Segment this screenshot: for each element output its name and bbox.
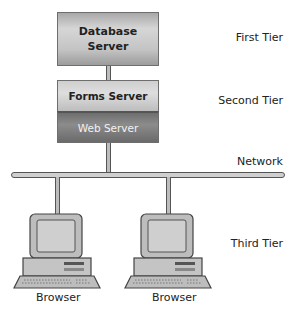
network-label: Network bbox=[237, 155, 283, 168]
client-label: Browser bbox=[36, 291, 81, 304]
computer-icon bbox=[123, 212, 213, 290]
web-server-box: Web Server bbox=[57, 111, 159, 143]
database-server-box: Database Server bbox=[57, 12, 159, 66]
third-tier-label: Third Tier bbox=[231, 237, 283, 250]
forms-server-label: Forms Server bbox=[69, 90, 148, 102]
forms-server-box: Forms Server bbox=[57, 80, 159, 111]
client-label: Browser bbox=[152, 291, 197, 304]
db-forms-connector bbox=[106, 66, 111, 80]
network-bus bbox=[11, 172, 285, 178]
web-network-connector bbox=[106, 143, 111, 174]
client1-connector bbox=[55, 177, 60, 214]
web-server-label: Web Server bbox=[78, 122, 139, 134]
second-tier-label: Second Tier bbox=[218, 94, 283, 107]
computer-icon bbox=[12, 212, 102, 290]
first-tier-label: First Tier bbox=[236, 31, 283, 44]
database-server-label: Database Server bbox=[79, 24, 138, 54]
client2-connector bbox=[166, 177, 171, 214]
